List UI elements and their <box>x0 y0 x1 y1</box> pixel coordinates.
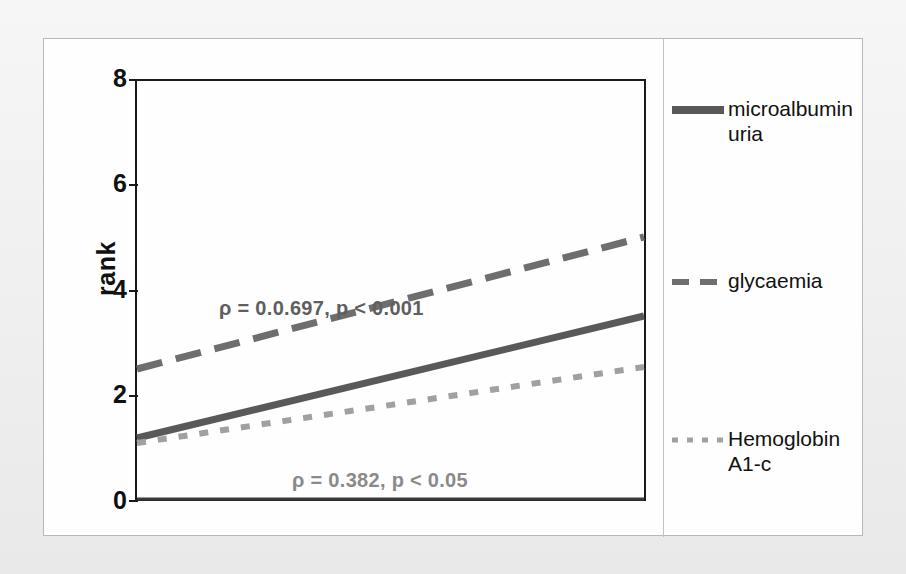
annotation-rho-hemoglobin: ρ = 0.382, p < 0.05 <box>292 469 468 492</box>
legend-label-hemoglobin: Hemoglobin A1-c <box>728 427 860 477</box>
legend-swatch-solid-icon <box>672 99 724 121</box>
chart-frame: 8 6 4 2 0 rank ρ = 0.0 <box>43 38 863 536</box>
legend-item-microalbuminuria[interactable]: microalbuminuria <box>672 97 862 147</box>
series-line-microalbuminuria <box>137 316 644 438</box>
legend-label-glycaemia: glycaemia <box>728 269 823 294</box>
legend-separator <box>663 39 664 537</box>
legend-swatch-long-dash-icon <box>672 271 724 293</box>
legend-item-hemoglobin[interactable]: Hemoglobin A1-c <box>672 427 862 477</box>
y-axis-title: rank <box>92 199 121 339</box>
legend-item-glycaemia[interactable]: glycaemia <box>672 269 862 294</box>
annotation-rho-glycaemia: ρ = 0.0.697, p < 0.001 <box>219 297 424 320</box>
chart-page: 8 6 4 2 0 rank ρ = 0.0 <box>0 0 906 574</box>
legend-swatch-dotted-icon <box>672 429 724 451</box>
plot-lines <box>135 79 646 501</box>
legend-label-microalbuminuria: microalbuminuria <box>728 97 860 147</box>
legend: microalbuminuria glycaemia Hemoglobin A1… <box>672 39 862 537</box>
